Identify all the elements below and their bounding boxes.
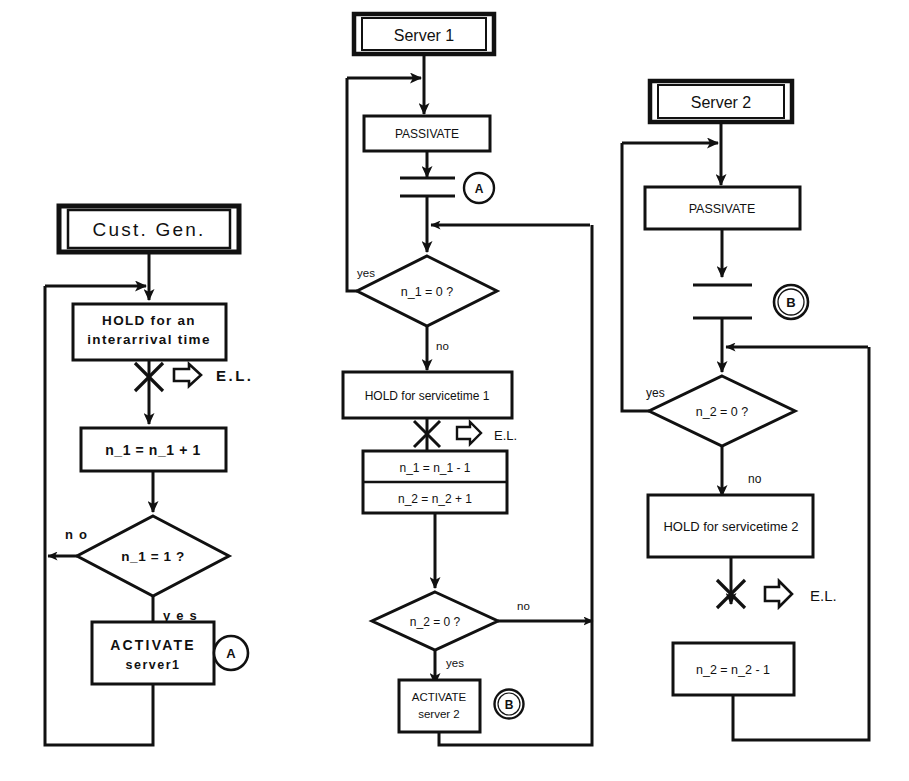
decide-n2-eq-0-label: n_2 = 0 ? bbox=[696, 405, 749, 419]
node-cust-gen-header: Cust. Gen. bbox=[59, 206, 239, 252]
hold-servicetime-1-label: HOLD for servicetime 1 bbox=[365, 389, 490, 403]
connector-b-col3: B bbox=[774, 285, 808, 319]
connector-b-col2: B bbox=[495, 690, 524, 719]
connector-b-col3-label: B bbox=[786, 295, 795, 310]
connector-b-col2-label: B bbox=[505, 698, 514, 712]
decide-n1-eq-0-label: n_1 = 0 ? bbox=[401, 285, 454, 299]
column-server-2: Server 2 PASSIVATE B n_2 = 0 ? yes no bbox=[622, 81, 869, 740]
column-server-1: Server 1 PASSIVATE A n_1 = 0 ? yes no bbox=[343, 14, 593, 745]
node-hold-interarrival: HOLD for an interarrival time bbox=[73, 304, 226, 360]
node-hold-servicetime-1: HOLD for servicetime 1 bbox=[343, 372, 512, 418]
node-incr-n1: n_1 = n_1 + 1 bbox=[81, 428, 226, 471]
update-counters-1-line1: n_1 = n_1 - 1 bbox=[399, 461, 470, 475]
yes-label-col2: yes bbox=[357, 267, 375, 279]
cust-gen-header-label: Cust. Gen. bbox=[93, 219, 206, 240]
server2-header-label: Server 2 bbox=[691, 94, 752, 111]
no-label-col3: no bbox=[748, 472, 762, 486]
edge-yes-rail-col2 bbox=[347, 78, 357, 291]
decide-n2-eq-0-mid-label: n_2 = 0 ? bbox=[410, 615, 461, 629]
node-decide-n1-eq-1: n_1 = 1 ? bbox=[77, 516, 229, 596]
node-decide-n1-eq-0: n_1 = 0 ? bbox=[357, 256, 497, 326]
yes2-label-col2: yes bbox=[446, 657, 464, 669]
hold-servicetime-2-label: HOLD for servicetime 2 bbox=[663, 519, 798, 534]
decr-n2-label: n_2 = n_2 - 1 bbox=[696, 663, 770, 677]
hold-interarrival-line1: HOLD for an bbox=[102, 313, 196, 328]
no-label-col1: n o bbox=[65, 527, 88, 542]
el-arrow-icon-col2 bbox=[457, 422, 481, 444]
el-label-col3: E.L. bbox=[810, 587, 837, 604]
el-arrow-icon-col3 bbox=[765, 581, 792, 607]
update-counters-1-line2: n_2 = n_2 + 1 bbox=[398, 492, 472, 506]
connector-a-col2: A bbox=[464, 173, 494, 203]
wait-bars-icon-col2 bbox=[400, 178, 455, 196]
activate-server1-line2: server1 bbox=[126, 658, 181, 672]
node-server1-header: Server 1 bbox=[354, 14, 494, 54]
activate-server2-line2: server 2 bbox=[418, 708, 460, 720]
passivate-2-label: PASSIVATE bbox=[689, 202, 756, 216]
el-arrow-icon bbox=[174, 364, 201, 386]
column-cust-gen: Cust. Gen. HOLD for an interarrival time… bbox=[45, 206, 254, 745]
flowchart-canvas: Cust. Gen. HOLD for an interarrival time… bbox=[0, 0, 909, 781]
server1-header-label: Server 1 bbox=[394, 27, 455, 44]
incr-n1-label: n_1 = n_1 + 1 bbox=[105, 442, 201, 458]
hold-interarrival-line2: interarrival time bbox=[87, 332, 210, 347]
no-label-col2: no bbox=[436, 340, 449, 352]
el-label-col2: E.L. bbox=[494, 428, 517, 443]
wait-bars-icon-col3 bbox=[693, 285, 752, 318]
node-update-counters-1: n_1 = n_1 - 1 n_2 = n_2 + 1 bbox=[363, 451, 507, 513]
node-decr-n2: n_2 = n_2 - 1 bbox=[673, 643, 794, 695]
flowchart-svg: Cust. Gen. HOLD for an interarrival time… bbox=[0, 0, 909, 781]
connector-a-col2-label: A bbox=[475, 182, 484, 196]
decide-n1-eq-1-label: n_1 = 1 ? bbox=[121, 549, 185, 564]
no2-label-col2: no bbox=[517, 600, 530, 612]
edge-yes-rail-col3 bbox=[622, 143, 649, 411]
activate-server2-line1: ACTIVATE bbox=[412, 691, 467, 703]
connector-a-col1-label: A bbox=[226, 646, 236, 661]
node-decide-n2-eq-0: n_2 = 0 ? bbox=[649, 376, 795, 446]
node-passivate-1: PASSIVATE bbox=[364, 116, 490, 151]
yes-label-col3: yes bbox=[646, 386, 665, 400]
node-hold-servicetime-2: HOLD for servicetime 2 bbox=[648, 495, 813, 557]
node-decide-n2-eq-0-mid: n_2 = 0 ? bbox=[372, 592, 498, 650]
connector-a-col1: A bbox=[214, 636, 248, 670]
node-activate-server2: ACTIVATE server 2 bbox=[399, 680, 480, 732]
node-passivate-2: PASSIVATE bbox=[645, 187, 800, 229]
passivate-1-label: PASSIVATE bbox=[395, 127, 459, 141]
activate-server1-line1: ACTIVATE bbox=[110, 637, 196, 653]
node-server2-header: Server 2 bbox=[650, 81, 792, 122]
el-label-col1: E.L. bbox=[216, 367, 254, 384]
node-activate-server1: ACTIVATE server1 bbox=[92, 622, 214, 684]
